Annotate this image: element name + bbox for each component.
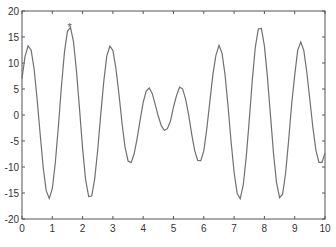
y-tick-label: 20: [8, 6, 20, 17]
x-tick-label: 8: [262, 223, 268, 234]
plot-area-frame: [22, 11, 325, 219]
x-tick-label: 3: [110, 223, 116, 234]
y-tick-label: -15: [5, 188, 20, 199]
x-tick-label: 5: [171, 223, 177, 234]
y-tick-label: 15: [8, 32, 20, 43]
x-tick-label: 1: [50, 223, 56, 234]
line-chart: -20-15-10-505101520 012345678910 *: [0, 0, 336, 247]
x-tick-label: 0: [19, 223, 25, 234]
y-tick-label: 10: [8, 58, 20, 69]
y-tick-label: 5: [13, 84, 19, 95]
x-tick-label: 6: [201, 223, 207, 234]
data-series-line: [22, 27, 325, 198]
y-tick-label: -20: [5, 214, 20, 225]
x-tick-label: 4: [140, 223, 146, 234]
x-tick-label: 9: [292, 223, 298, 234]
x-tick-label: 7: [231, 223, 237, 234]
y-tick-label: -5: [10, 136, 19, 147]
x-tick-label: 10: [319, 223, 331, 234]
y-axis-ticks: -20-15-10-505101520: [5, 6, 325, 225]
y-tick-label: 0: [13, 110, 19, 121]
y-tick-label: -10: [5, 162, 20, 173]
max-point-star-marker: *: [67, 21, 72, 33]
x-tick-label: 2: [80, 223, 86, 234]
